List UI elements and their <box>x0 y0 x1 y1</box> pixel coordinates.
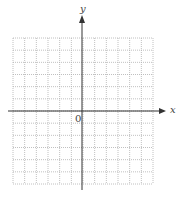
y-axis-label: y <box>80 3 86 14</box>
x-axis-label: x <box>170 104 176 115</box>
coordinate-plane <box>0 0 184 197</box>
origin-label: 0 <box>75 113 81 124</box>
x-axis-arrow-icon <box>159 108 166 114</box>
y-axis-arrow-icon <box>79 15 85 23</box>
